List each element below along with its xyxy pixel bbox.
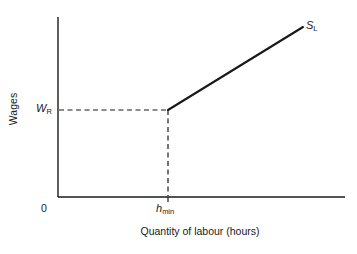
minimum-hours-subscript: min: [162, 207, 174, 216]
supply-curve-subscript: L: [313, 24, 317, 33]
origin-label: 0: [41, 203, 47, 214]
reservation-wage-subscript: R: [46, 107, 51, 116]
labour-supply-curve: [168, 27, 303, 110]
reservation-wage-base: W: [36, 102, 46, 114]
y-axis-title-text: Wages: [8, 78, 19, 140]
supply-curve-label: SL: [306, 20, 318, 31]
chart-canvas: [0, 0, 357, 254]
x-axis-title: Quantity of labour (hours): [100, 226, 300, 237]
reservation-wage-label: WR: [36, 103, 52, 114]
minimum-hours-label: hmin: [156, 203, 174, 214]
labour-supply-chart: Wages Quantity of labour (hours) 0 WR hm…: [0, 0, 357, 254]
